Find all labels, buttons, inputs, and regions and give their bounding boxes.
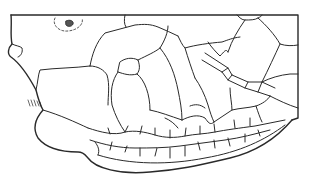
scale-line — [202, 60, 270, 96]
scale-line — [111, 72, 125, 132]
scale-line — [36, 66, 90, 90]
scale-line — [228, 20, 245, 52]
scale-line — [270, 96, 298, 108]
scale-line — [90, 130, 270, 148]
scale-line — [43, 110, 88, 128]
scale-line — [208, 42, 228, 56]
scale-line — [205, 53, 275, 88]
scale-line — [90, 24, 178, 66]
scale-line — [124, 15, 126, 27]
scale-line — [90, 66, 109, 105]
scale-line — [88, 120, 285, 137]
scale-line — [214, 96, 270, 122]
left-outline — [8, 15, 292, 173]
scale-line — [12, 44, 22, 57]
nostril-spot — [66, 20, 73, 26]
top-edge-line — [11, 15, 298, 120]
scale-line — [258, 18, 298, 46]
scale-line — [95, 130, 260, 158]
scale-line — [138, 26, 168, 60]
scale-line — [182, 116, 214, 124]
scale-line — [118, 58, 139, 75]
scale-line — [185, 48, 195, 78]
scale-line — [137, 74, 150, 110]
scale-line — [256, 106, 262, 122]
scale-line — [222, 68, 262, 92]
scale-line — [108, 118, 250, 138]
scale-line — [230, 88, 232, 110]
scale-line — [195, 78, 214, 122]
scale-pattern-drawing — [0, 0, 310, 180]
scale-line — [262, 74, 298, 82]
scale-line — [160, 48, 182, 120]
scale-line — [237, 15, 262, 20]
line-drawing-figure — [0, 0, 310, 180]
